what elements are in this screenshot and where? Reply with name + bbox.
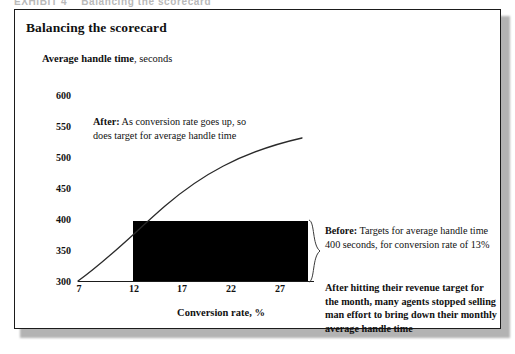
x-axis-title: Conversion rate, % <box>121 307 321 318</box>
exhibit-caption-text: Balancing the scorecard <box>81 0 211 7</box>
before-annotation: Before: Targets for average handle time … <box>325 224 493 251</box>
x-tick-17: 17 <box>170 283 194 294</box>
before-annotation-lead: Before: <box>325 225 357 236</box>
x-tick-7: 7 <box>67 283 91 294</box>
exhibit-number: EXHIBIT 4 <box>14 0 67 7</box>
x-tick-22: 22 <box>219 283 243 294</box>
x-tick-27: 27 <box>268 283 292 294</box>
exhibit-panel: Balancing the scorecard Average handle t… <box>14 9 501 329</box>
after-annotation: After: As conversion rate goes up, so do… <box>93 115 253 142</box>
exhibit-caption: EXHIBIT 4Balancing the scorecard <box>14 0 484 8</box>
brace-icon <box>307 219 323 283</box>
chart-area: Average handle time, seconds 600 550 500… <box>15 10 502 330</box>
note-annotation: After hitting their revenue target for t… <box>325 281 497 335</box>
after-annotation-lead: After: <box>93 116 120 127</box>
x-tick-12: 12 <box>122 283 146 294</box>
